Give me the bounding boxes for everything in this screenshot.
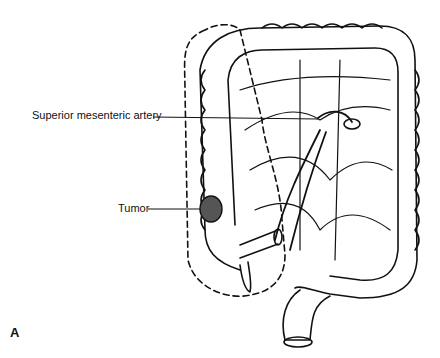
- artery-leader-line: [153, 117, 318, 119]
- appendix: [240, 262, 251, 292]
- tumor-label: Tumor: [118, 202, 149, 214]
- rectum-end: [284, 337, 312, 347]
- artery-label: Superior mesenteric artery: [32, 109, 162, 121]
- colon-illustration: [0, 0, 440, 358]
- rectum: [283, 290, 330, 340]
- haustra-top: [262, 24, 382, 28]
- tumor-mass: [200, 196, 222, 222]
- sma-trunk: [275, 112, 352, 250]
- panel-label: A: [10, 325, 19, 340]
- ileum-stump: [240, 230, 278, 258]
